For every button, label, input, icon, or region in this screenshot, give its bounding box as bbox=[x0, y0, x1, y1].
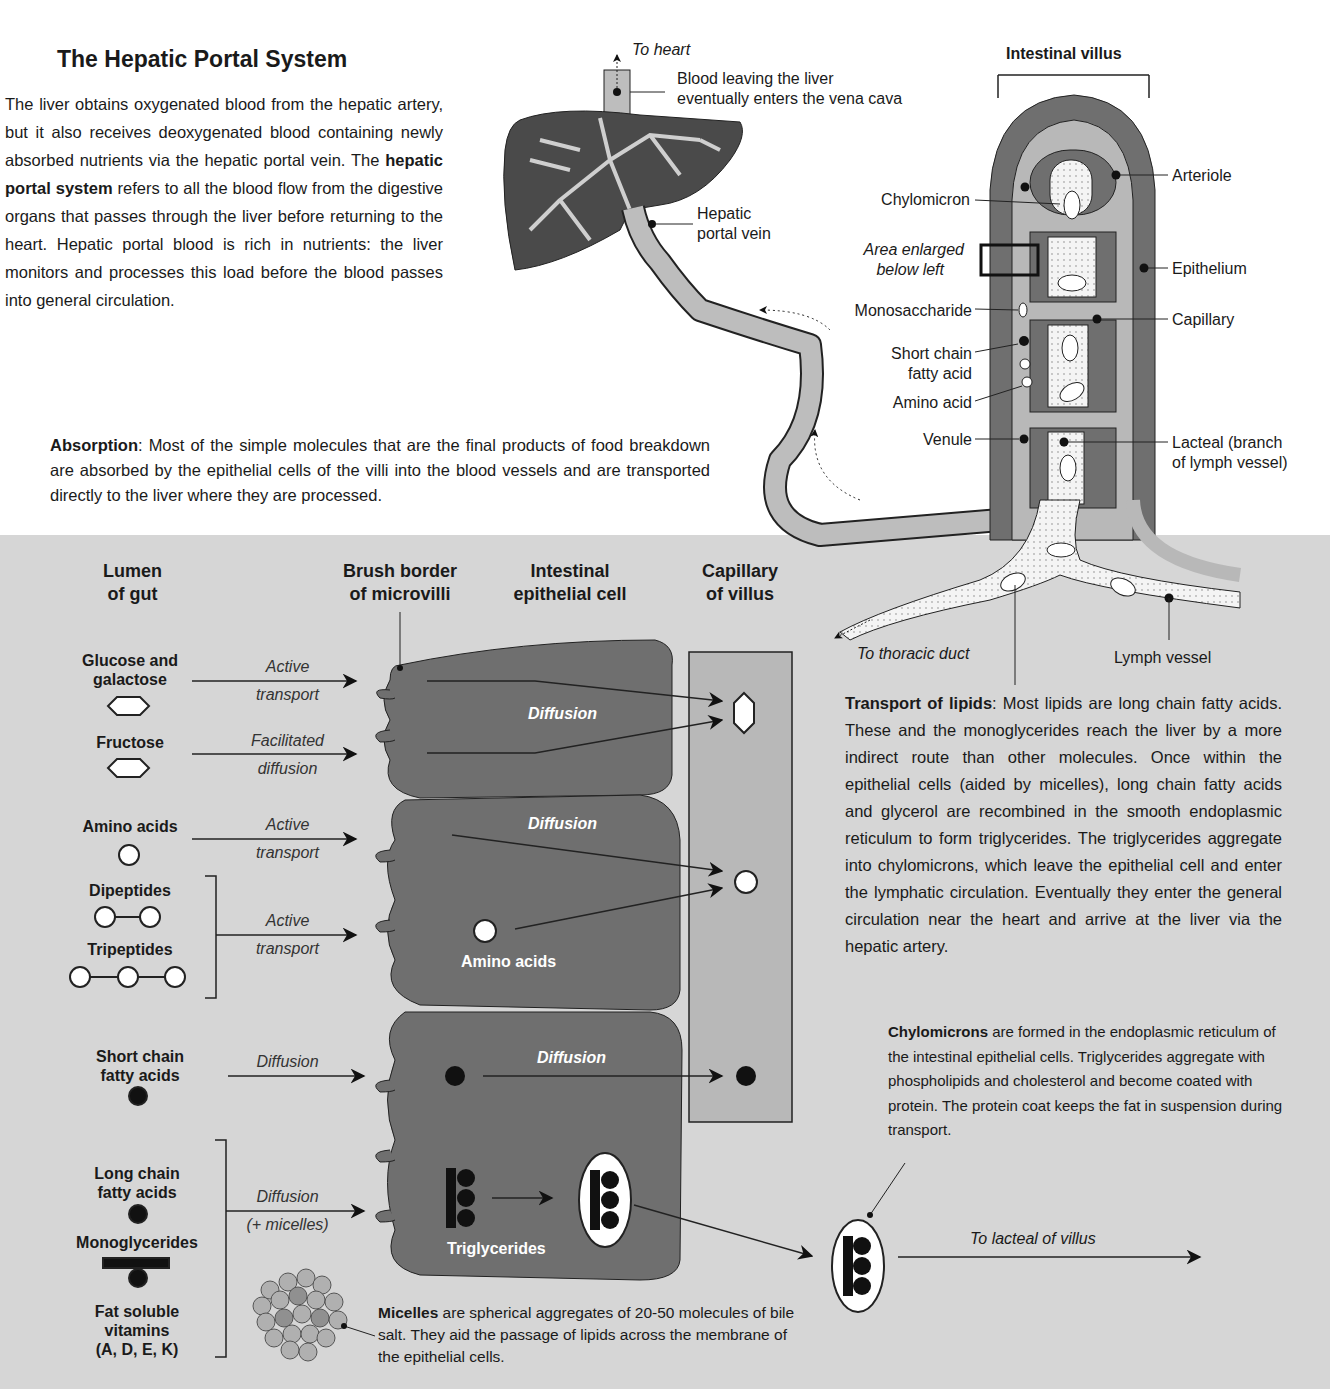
cell-diffusion-label-1: Diffusion bbox=[528, 705, 597, 723]
header-cell-1: Intestinal bbox=[490, 560, 650, 583]
tripeptides-label: Tripeptides bbox=[50, 940, 210, 959]
scfa-label-2: fatty acids bbox=[60, 1066, 220, 1085]
process-transport-3: transport bbox=[230, 935, 345, 963]
vena-cava-label-1: Blood leaving the liver bbox=[677, 69, 834, 88]
absorption-paragraph: Absorption: Most of the simple molecules… bbox=[50, 433, 710, 508]
header-lumen-2: of gut bbox=[80, 583, 185, 606]
absorption-bold: Absorption bbox=[50, 436, 138, 454]
absorption-text: : Most of the simple molecules that are … bbox=[50, 436, 710, 504]
portal-vein-marker bbox=[648, 220, 656, 228]
lacteal-label-2: of lymph vessel) bbox=[1172, 453, 1288, 472]
intro-paragraph: The liver obtains oxygenated blood from … bbox=[5, 90, 443, 314]
process-active-transport-1: Activetransport bbox=[230, 653, 345, 709]
to-thoracic-duct-label: To thoracic duct bbox=[857, 644, 969, 663]
micelles-paragraph: Micelles are spherical aggregates of 20-… bbox=[378, 1302, 798, 1368]
process-active-2: Active bbox=[230, 811, 345, 839]
scfa-label: Short chainfatty acids bbox=[60, 1047, 220, 1085]
glucose-label-1: Glucose and bbox=[50, 651, 210, 670]
fructose-label: Fructose bbox=[50, 733, 210, 752]
vitamins-label-2: vitamins bbox=[57, 1321, 217, 1340]
venule-label: Venule bbox=[830, 430, 972, 449]
process-active-1: Active bbox=[230, 653, 345, 681]
vena-cava-label-2: eventually enters the vena cava bbox=[677, 89, 902, 108]
lipids-text: : Most lipids are long chain fatty acids… bbox=[845, 694, 1282, 955]
process-active-transport-3: Activetransport bbox=[230, 907, 345, 963]
area-enlarged-label-1: Area enlarged bbox=[830, 240, 964, 259]
chylomicrons-text: are formed in the endoplasmic reticulum … bbox=[888, 1023, 1282, 1138]
process-diffusion-lcfa: Diffusion bbox=[230, 1183, 345, 1211]
micelle-icon bbox=[253, 1269, 347, 1361]
chylomicrons-bold: Chylomicrons bbox=[888, 1023, 988, 1040]
cell-diffusion-label-3: Diffusion bbox=[537, 1049, 606, 1067]
process-active-transport-2: Activetransport bbox=[230, 811, 345, 867]
process-transport-1: transport bbox=[230, 681, 345, 709]
villus-title: Intestinal villus bbox=[1006, 45, 1122, 63]
process-facilitated-diffusion: Facilitateddiffusion bbox=[230, 727, 345, 783]
monoglycerides-label: Monoglycerides bbox=[57, 1233, 217, 1252]
cell-amino-acids-label: Amino acids bbox=[461, 953, 556, 971]
process-active-3: Active bbox=[230, 907, 345, 935]
to-heart-label: To heart bbox=[632, 40, 690, 59]
chylomicron-label: Chylomicron bbox=[830, 190, 970, 209]
cell-diffusion-label-2: Diffusion bbox=[528, 815, 597, 833]
scfa-label-1: Short chain bbox=[60, 1047, 220, 1066]
short-chain-label-1: Short chain bbox=[830, 344, 972, 363]
glucose-label-2: galactose bbox=[50, 670, 210, 689]
lipids-paragraph: Transport of lipids: Most lipids are lon… bbox=[845, 690, 1282, 960]
vitamins-label-1: Fat soluble bbox=[57, 1302, 217, 1321]
arteriole-label: Arteriole bbox=[1172, 166, 1232, 185]
lcfa-label-1: Long chain bbox=[57, 1164, 217, 1183]
to-lacteal-label: To lacteal of villus bbox=[970, 1229, 1096, 1248]
micelles-text: are spherical aggregates of 20-50 molecu… bbox=[378, 1304, 794, 1365]
vitamins-label-3: (A, D, E, K) bbox=[57, 1340, 217, 1359]
process-diffusion-scfa: Diffusion bbox=[230, 1048, 345, 1076]
lymph-vessel-label: Lymph vessel bbox=[1114, 648, 1211, 667]
vitamins-label: Fat solublevitamins(A, D, E, K) bbox=[57, 1302, 217, 1359]
page-title: The Hepatic Portal System bbox=[57, 46, 347, 73]
intro-text-1: The liver obtains oxygenated blood from … bbox=[5, 95, 443, 169]
process-plus-micelles: (+ micelles) bbox=[230, 1211, 345, 1239]
portal-vein-label-2: portal vein bbox=[697, 224, 771, 243]
intro-text-2: refers to all the blood flow from the di… bbox=[5, 179, 443, 309]
lacteal-label-1: Lacteal (branch bbox=[1172, 433, 1282, 452]
header-brush-1: Brush border bbox=[325, 560, 475, 583]
cell-triglycerides-label: Triglycerides bbox=[447, 1240, 546, 1258]
micelles-bold: Micelles bbox=[378, 1304, 438, 1321]
portal-vein-label-1: Hepatic bbox=[697, 204, 751, 223]
lcfa-label: Long chainfatty acids bbox=[57, 1164, 217, 1202]
lcfa-label-2: fatty acids bbox=[57, 1183, 217, 1202]
header-lumen: Lumenof gut bbox=[80, 560, 185, 606]
process-facilitated: Facilitated bbox=[230, 727, 345, 755]
process-diffusion-micelles: Diffusion(+ micelles) bbox=[230, 1183, 345, 1239]
header-capillary: Capillaryof villus bbox=[680, 560, 800, 606]
header-cell-2: epithelial cell bbox=[490, 583, 650, 606]
amino-acid-label: Amino acid bbox=[830, 393, 972, 412]
epithelium-label: Epithelium bbox=[1172, 259, 1247, 278]
process-diffusion-lc: diffusion bbox=[230, 755, 345, 783]
glucose-label: Glucose andgalactose bbox=[50, 651, 210, 689]
monosaccharide-label: Monosaccharide bbox=[820, 301, 972, 320]
area-enlarged-label-2: below left bbox=[830, 260, 944, 279]
header-capillary-2: of villus bbox=[680, 583, 800, 606]
chylomicrons-paragraph: Chylomicrons are formed in the endoplasm… bbox=[888, 1020, 1288, 1143]
capillary-label: Capillary bbox=[1172, 310, 1234, 329]
header-brush-2: of microvilli bbox=[325, 583, 475, 606]
process-transport-2: transport bbox=[230, 839, 345, 867]
header-brush-border: Brush borderof microvilli bbox=[325, 560, 475, 606]
short-chain-label-2: fatty acid bbox=[830, 364, 972, 383]
amino-acids-label: Amino acids bbox=[50, 817, 210, 836]
lipids-bold: Transport of lipids bbox=[845, 694, 992, 712]
header-capillary-1: Capillary bbox=[680, 560, 800, 583]
header-epithelial-cell: Intestinalepithelial cell bbox=[490, 560, 650, 606]
dipeptides-label: Dipeptides bbox=[50, 881, 210, 900]
header-lumen-1: Lumen bbox=[80, 560, 185, 583]
vena-cava-marker bbox=[613, 88, 621, 96]
